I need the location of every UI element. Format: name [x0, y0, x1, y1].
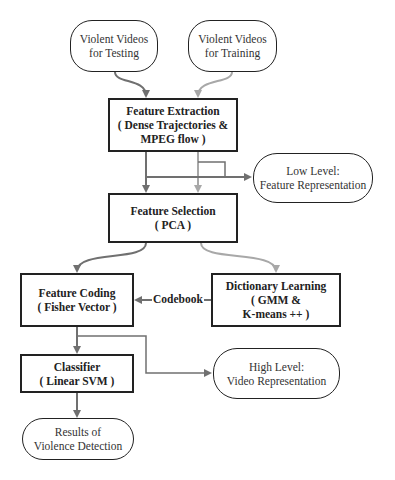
node-feature-selection: Feature Selection ( PCA )	[108, 193, 238, 243]
node-classifier: Classifier ( Linear SVM )	[20, 354, 134, 393]
node-results: Results of Violence Detection	[22, 418, 134, 460]
node-violent-videos-training: Violent Videos for Training	[188, 20, 277, 72]
node-dictionary-learning: Dictionary Learning ( GMM & K-means ++ )	[211, 273, 341, 327]
node-low-level-representation: Low Level: Feature Representation	[253, 153, 373, 203]
node-feature-extraction: Feature Extraction ( Dense Trajectories …	[108, 98, 238, 152]
codebook-label: Codebook	[152, 293, 204, 305]
node-feature-coding: Feature Coding ( Fisher Vector )	[20, 273, 134, 327]
node-high-level-representation: High Level: Video Representation	[213, 348, 340, 399]
node-violent-videos-testing: Violent Videos for Testing	[70, 20, 158, 72]
